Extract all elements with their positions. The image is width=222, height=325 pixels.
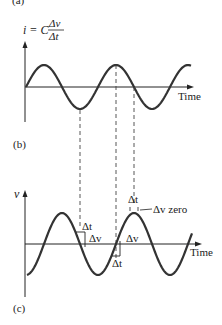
delta-v-label-1: Δv: [89, 232, 102, 244]
delta-t-label-1: Δt: [82, 220, 92, 232]
delta-t-label-2: Δt: [112, 257, 122, 269]
delta-v-label-2: Δv: [126, 232, 139, 244]
capacitor-current-voltage-diagram: (a) i = C Δv Δt Time (b) v Time Δt Δv: [0, 0, 222, 325]
panel-c-label: (c): [13, 302, 26, 315]
top-x-axis-label: Time: [178, 90, 201, 102]
panel-b-label: (b): [13, 138, 26, 151]
top-y-axis-arrow: [23, 41, 28, 48]
bottom-x-axis-label: Time: [190, 246, 213, 258]
delta-v-zero-label: Δv zero: [153, 203, 188, 215]
delta-v-zero-leader: [140, 209, 152, 210]
panel-b: i = C Δv Δt Time (b): [13, 17, 201, 151]
panel-c: v Time Δt Δv Δv Δt Δt Δv zero (c): [13, 187, 213, 315]
delta-t-label-peak: Δt: [128, 193, 138, 205]
formula-prefix: i = C: [23, 23, 49, 37]
formula-numerator: Δv: [48, 17, 60, 29]
formula-denominator: Δt: [48, 30, 59, 42]
bottom-y-axis-arrow: [23, 190, 28, 197]
bottom-y-axis-label: v: [14, 187, 20, 201]
panel-a-label: (a): [12, 0, 25, 7]
top-x-axis-arrow: [187, 85, 194, 90]
